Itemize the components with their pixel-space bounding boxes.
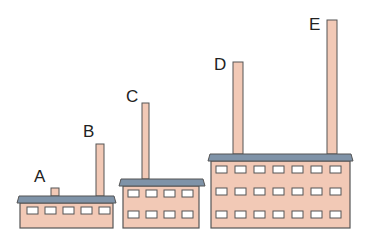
window xyxy=(292,188,303,195)
window xyxy=(311,211,322,218)
window xyxy=(235,211,246,218)
window xyxy=(330,211,341,218)
window xyxy=(330,166,341,173)
label-e: E xyxy=(309,15,320,34)
window xyxy=(182,211,193,218)
window xyxy=(216,166,227,173)
window xyxy=(330,188,341,195)
label-a: A xyxy=(34,167,46,186)
window xyxy=(63,207,74,214)
window xyxy=(164,190,175,197)
chimney-b xyxy=(96,144,104,196)
window xyxy=(45,207,56,214)
medium-factory xyxy=(119,179,205,228)
window xyxy=(216,188,227,195)
label-b: B xyxy=(83,122,94,141)
label-c: C xyxy=(126,87,138,106)
window xyxy=(235,188,246,195)
window xyxy=(182,190,193,197)
window xyxy=(164,211,175,218)
window xyxy=(146,190,157,197)
chimney-c xyxy=(142,103,149,179)
chimney-e xyxy=(327,20,337,154)
window xyxy=(216,211,227,218)
large-factory xyxy=(208,154,353,228)
roof xyxy=(17,196,116,203)
chimney-a xyxy=(51,188,59,196)
window xyxy=(292,211,303,218)
window xyxy=(27,207,38,214)
roof xyxy=(119,179,205,186)
window xyxy=(235,166,246,173)
label-d: D xyxy=(214,55,226,74)
window xyxy=(146,211,157,218)
factory-chimney-diagram: ABCDE xyxy=(0,0,367,238)
window xyxy=(273,166,284,173)
small-factory xyxy=(17,196,116,228)
window xyxy=(99,207,110,214)
window xyxy=(128,190,139,197)
window xyxy=(311,166,322,173)
window xyxy=(292,166,303,173)
chimney-d xyxy=(233,62,243,154)
window xyxy=(273,188,284,195)
window xyxy=(254,166,265,173)
roof xyxy=(208,154,353,161)
window xyxy=(81,207,92,214)
window xyxy=(254,188,265,195)
window xyxy=(273,211,284,218)
window xyxy=(254,211,265,218)
window xyxy=(128,211,139,218)
window xyxy=(311,188,322,195)
